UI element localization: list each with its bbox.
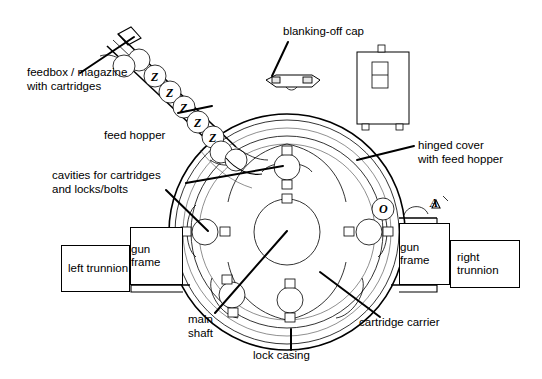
- cartridge-marking-5: Z: [209, 131, 216, 146]
- reference-letter-a: A: [430, 196, 438, 211]
- label-cavities-for-cartridges: cavities for cartridges and locks/bolts: [52, 169, 161, 196]
- reference-letter-o: O: [379, 202, 388, 217]
- label-cartridge-carrier: cartridge carrier: [359, 316, 440, 330]
- label-lock-casing: lock casing: [253, 349, 310, 363]
- main-shaft-hub: [254, 194, 320, 265]
- cartridge-marking-1: Z: [151, 70, 158, 85]
- label-blanking-off-cap: blanking-off cap: [283, 25, 364, 39]
- callout-gun-frame-left: gun frame: [130, 227, 183, 285]
- label-main-shaft: main shaft: [188, 313, 213, 340]
- hinged-cover-box: [357, 45, 409, 130]
- cartridge-marking-2: Z: [166, 86, 173, 101]
- callout-gun-frame-right: gun frame: [399, 223, 450, 285]
- label-feedbox-magazine: feedbox / magazine with cartridges: [27, 66, 127, 93]
- blanking-off-cap: [266, 75, 320, 90]
- callout-right-trunnion: right trunnion: [450, 240, 520, 288]
- label-feed-hopper: feed hopper: [104, 129, 165, 143]
- diagram-canvas: .ln{fill:none;stroke:#000;stroke-width:1…: [0, 0, 542, 379]
- callout-left-trunnion: left trunnion: [61, 245, 130, 292]
- cavity-bottom-right: [277, 278, 363, 322]
- cartridge-marking-4: Z: [194, 116, 201, 131]
- label-hinged-cover: hinged cover with feed hopper: [418, 139, 503, 166]
- cartridge-marking-3: Z: [180, 101, 187, 116]
